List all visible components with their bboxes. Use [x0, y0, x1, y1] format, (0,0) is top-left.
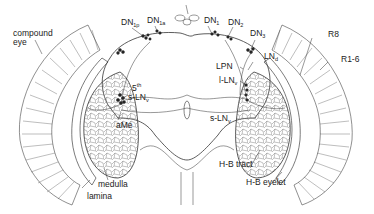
- label-s-lnv-right: s-LNv: [210, 114, 231, 125]
- label-lpn: LPN: [216, 62, 233, 71]
- label-ame: aMe: [116, 121, 133, 130]
- label-lnd: LNd: [264, 52, 278, 63]
- label-dn1a: DN1a: [147, 16, 165, 27]
- label-compound-eye: compound eye: [13, 29, 53, 46]
- brain-illustration: [0, 0, 374, 214]
- label-hb-eyelet: H-B eyelet: [246, 178, 286, 187]
- label-5th-s-lnv: 5th s-LNv: [128, 83, 149, 103]
- label-dn2: DN2: [228, 18, 243, 29]
- label-dn1: DN1: [204, 16, 219, 27]
- label-lamina: lamina: [87, 192, 112, 201]
- ocelli: [175, 5, 199, 25]
- label-dn3: DN3: [250, 29, 265, 40]
- clock-neuron-diagram: compound eye DN1p DN1a DN1 DN2 DN3 LNd L…: [0, 0, 374, 214]
- label-r1-6: R1-6: [341, 55, 359, 64]
- label-dn1p: DN1p: [121, 18, 139, 29]
- label-r8: R8: [328, 30, 339, 39]
- label-compound-eye-line2: eye: [13, 37, 27, 47]
- label-hb-tract: H-B tract: [219, 160, 253, 169]
- label-medulla: medulla: [98, 180, 128, 189]
- label-l-lnv: l-LNv: [219, 76, 237, 87]
